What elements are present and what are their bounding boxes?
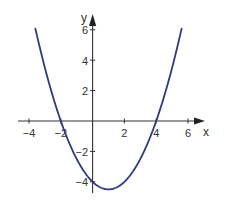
y-tick-label: 2 (82, 85, 88, 97)
x-tick-label: −4 (23, 127, 36, 139)
x-tick-label: 2 (121, 127, 127, 139)
x-axis-arrow-icon (194, 118, 205, 125)
y-tick-label: 6 (82, 24, 88, 36)
function-graph: −4 −2 2 4 6 x 6 4 2 −2 −4 y (0, 0, 228, 200)
y-tick-label: −4 (75, 176, 88, 188)
y-tick-label: 4 (82, 55, 88, 67)
x-tick-label: 6 (185, 127, 191, 139)
y-axis-arrow-icon (89, 14, 96, 26)
x-axis-label: x (203, 125, 209, 139)
y-tick-label: −2 (75, 146, 88, 158)
y-axis-label: y (81, 11, 87, 25)
parabola-curve (35, 29, 181, 190)
